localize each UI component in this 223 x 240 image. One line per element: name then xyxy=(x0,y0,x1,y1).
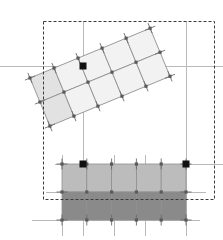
mesh-vertex[interactable] xyxy=(158,51,161,54)
mesh-vertex[interactable] xyxy=(160,218,163,221)
mesh-vertex[interactable] xyxy=(85,218,88,221)
mesh-vertex[interactable] xyxy=(184,218,187,221)
mesh-vertex[interactable] xyxy=(72,114,75,117)
mesh-cell[interactable] xyxy=(87,164,112,192)
mesh-cell[interactable] xyxy=(161,164,186,192)
mesh-vertex[interactable] xyxy=(52,66,55,69)
mesh-cell[interactable] xyxy=(136,164,161,192)
mesh-vertex[interactable] xyxy=(160,190,163,193)
mesh-cell[interactable] xyxy=(112,164,137,192)
mesh-vertex[interactable] xyxy=(124,37,127,40)
mesh-vertex[interactable] xyxy=(149,27,152,30)
mesh-cell[interactable] xyxy=(62,164,87,192)
mesh-vertex[interactable] xyxy=(110,162,113,165)
mesh-vertex[interactable] xyxy=(62,90,65,93)
mesh-vertex[interactable] xyxy=(110,218,113,221)
mesh-cell[interactable] xyxy=(87,192,112,220)
mesh-stage[interactable] xyxy=(0,0,223,240)
mesh-vertex[interactable] xyxy=(38,100,41,103)
mesh-vertex[interactable] xyxy=(110,71,113,74)
mesh-vertex[interactable] xyxy=(134,61,137,64)
mesh-vertex[interactable] xyxy=(160,162,163,165)
rotated-mesh-group[interactable] xyxy=(25,23,175,131)
mesh-vertex[interactable] xyxy=(60,190,63,193)
selection-handle[interactable] xyxy=(80,63,87,70)
mesh-vertex[interactable] xyxy=(86,81,89,84)
mesh-vertex[interactable] xyxy=(120,95,123,98)
mesh-editor-canvas[interactable] xyxy=(0,0,223,240)
mesh-vertex[interactable] xyxy=(110,190,113,193)
selection-handle[interactable] xyxy=(183,161,190,168)
mesh-vertex[interactable] xyxy=(135,218,138,221)
mesh-vertex[interactable] xyxy=(135,162,138,165)
mesh-cell[interactable] xyxy=(136,192,161,220)
mesh-vertex[interactable] xyxy=(60,218,63,221)
mesh-vertex[interactable] xyxy=(184,190,187,193)
mesh-cell[interactable] xyxy=(62,192,87,220)
mesh-cell[interactable] xyxy=(112,192,137,220)
mesh-vertex[interactable] xyxy=(60,162,63,165)
lower-mesh-group[interactable] xyxy=(57,159,192,226)
mesh-cell[interactable] xyxy=(161,192,186,220)
mesh-vertex[interactable] xyxy=(76,57,79,60)
mesh-vertex[interactable] xyxy=(85,190,88,193)
mesh-vertex[interactable] xyxy=(144,85,147,88)
mesh-vertex[interactable] xyxy=(168,75,171,78)
mesh-vertex[interactable] xyxy=(100,47,103,50)
selection-handle[interactable] xyxy=(80,161,87,168)
mesh-vertex[interactable] xyxy=(96,105,99,108)
mesh-vertex[interactable] xyxy=(135,190,138,193)
mesh-vertex[interactable] xyxy=(48,124,51,127)
mesh-vertex[interactable] xyxy=(28,76,31,79)
